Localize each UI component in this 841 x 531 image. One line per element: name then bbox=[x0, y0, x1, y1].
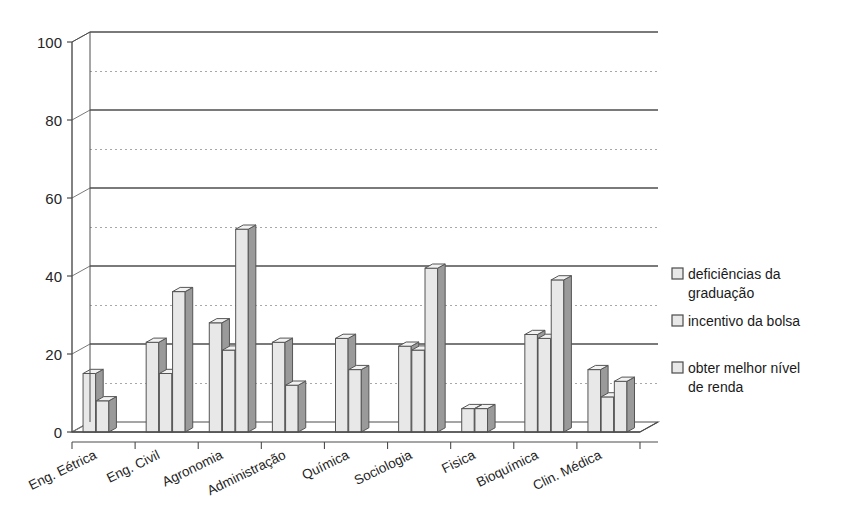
bar-front-face bbox=[159, 374, 172, 433]
bar-front-face bbox=[475, 409, 488, 432]
bar-front-face bbox=[412, 350, 425, 432]
x-axis-labels: Eng. EétricaEng. CivilAgronomiaAdministr… bbox=[26, 447, 604, 498]
bar-front-face bbox=[96, 401, 109, 432]
bar bbox=[349, 365, 369, 432]
bar-front-face bbox=[173, 292, 186, 432]
bar-chart: 020406080100Eng. EétricaEng. CivilAgrono… bbox=[0, 0, 841, 531]
bar-side-face bbox=[298, 381, 306, 432]
bar-front-face bbox=[336, 338, 349, 432]
x-axis-category-label: Bioquímica bbox=[474, 447, 541, 490]
bar-front-face bbox=[462, 409, 475, 432]
legend-swatch bbox=[672, 362, 683, 373]
x-axis-category-label: Sociologia bbox=[352, 447, 415, 488]
x-axis-category-label: Eng. Civil bbox=[104, 447, 162, 485]
bar-front-face bbox=[349, 370, 362, 432]
legend-item[interactable]: incentivo da bolsa bbox=[672, 313, 800, 329]
y-axis-tick-label: 0 bbox=[54, 424, 62, 441]
gridline-depth-connector bbox=[72, 188, 90, 198]
x-axis-category-label: Clin. Médica bbox=[530, 447, 604, 493]
bars-layer bbox=[83, 225, 634, 432]
bar-front-face bbox=[614, 381, 627, 432]
bar bbox=[236, 225, 256, 432]
legend-label-line2: graduação bbox=[688, 285, 754, 301]
x-axis-category-label: Fisica bbox=[439, 447, 478, 476]
y-axis-tick-label: 20 bbox=[45, 346, 62, 363]
bar bbox=[425, 264, 445, 432]
bar-side-face bbox=[185, 287, 193, 432]
bar-front-face bbox=[399, 346, 412, 432]
legend-label-line1: obter melhor nível bbox=[688, 360, 800, 376]
bar bbox=[475, 404, 495, 432]
x-axis-category-label: Química bbox=[300, 447, 352, 483]
bar-side-face bbox=[564, 276, 572, 432]
bar-front-face bbox=[272, 342, 285, 432]
bar bbox=[173, 287, 193, 432]
bar-front-face bbox=[525, 335, 538, 433]
bar-front-face bbox=[538, 338, 551, 432]
x-axis-category-label: Eng. Eétrica bbox=[26, 447, 99, 493]
bar-front-face bbox=[83, 374, 96, 433]
gridline-depth-connector bbox=[72, 344, 90, 354]
legend-label-line1: deficiências da bbox=[688, 266, 781, 282]
y-axis-top-connector bbox=[72, 32, 90, 42]
bar-front-face bbox=[222, 350, 235, 432]
bar-side-face bbox=[248, 225, 256, 432]
bar-front-face bbox=[146, 342, 159, 432]
legend: deficiências dagraduaçãoincentivo da bol… bbox=[672, 266, 800, 395]
bar bbox=[96, 397, 116, 432]
bar bbox=[551, 276, 571, 432]
y-axis-tick-label: 40 bbox=[45, 268, 62, 285]
bar bbox=[286, 381, 306, 432]
y-axis-tick-label: 60 bbox=[45, 190, 62, 207]
legend-label-line1: incentivo da bolsa bbox=[688, 313, 800, 329]
legend-item[interactable]: deficiências dagraduação bbox=[672, 266, 781, 301]
y-axis-tick-label: 100 bbox=[37, 34, 62, 51]
bar bbox=[614, 377, 634, 432]
bar-front-face bbox=[236, 229, 249, 432]
bar-front-face bbox=[601, 397, 614, 432]
y-axis-tick-label: 80 bbox=[45, 112, 62, 129]
bar-side-face bbox=[361, 365, 369, 432]
legend-label-line2: de renda bbox=[688, 379, 743, 395]
bar-side-face bbox=[109, 397, 117, 432]
legend-swatch bbox=[672, 268, 683, 279]
bar-front-face bbox=[551, 280, 564, 432]
chart-canvas: 020406080100Eng. EétricaEng. CivilAgrono… bbox=[0, 0, 841, 531]
legend-swatch bbox=[672, 315, 683, 326]
bar-front-face bbox=[286, 385, 299, 432]
bar-front-face bbox=[425, 268, 438, 432]
bar-side-face bbox=[438, 264, 446, 432]
bar-front-face bbox=[588, 370, 601, 432]
legend-item[interactable]: obter melhor nívelde renda bbox=[672, 360, 800, 395]
bar-side-face bbox=[627, 377, 635, 432]
gridline-depth-connector bbox=[72, 266, 90, 276]
gridline-depth-connector bbox=[72, 110, 90, 120]
bar-front-face bbox=[209, 323, 222, 432]
